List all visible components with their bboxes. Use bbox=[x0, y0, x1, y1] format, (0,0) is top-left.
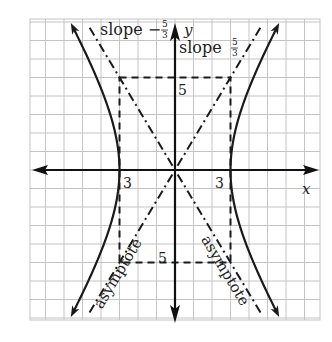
hyperbola-diagram: x y 3 3 5 5 slope − 5 3 slope 5 3 asympt… bbox=[0, 0, 332, 342]
tick-label-y-pos5: 5 bbox=[178, 82, 187, 98]
x-axis-label: x bbox=[302, 180, 311, 198]
slope-positive-numerator: 5 bbox=[232, 37, 238, 47]
y-axis-label: y bbox=[183, 21, 193, 39]
asymptote-label-left: asymptote bbox=[90, 235, 146, 312]
slope-positive-text: slope bbox=[179, 38, 222, 57]
slope-negative-numerator: 5 bbox=[162, 19, 168, 29]
tick-label-x-neg3: 3 bbox=[123, 175, 132, 191]
tick-label-y-neg5: 5 bbox=[158, 250, 167, 266]
slope-negative-text: slope − bbox=[100, 20, 161, 39]
slope-negative-label: slope − 5 3 bbox=[100, 19, 168, 40]
slope-negative-denominator: 3 bbox=[162, 30, 168, 40]
slope-positive-denominator: 3 bbox=[232, 48, 238, 58]
tick-label-x-pos3: 3 bbox=[215, 175, 224, 191]
